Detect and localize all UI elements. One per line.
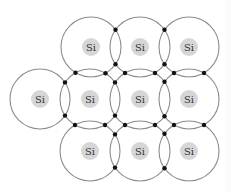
atom-label: Si bbox=[86, 42, 96, 53]
atom-label: Si bbox=[184, 94, 194, 105]
atom-label: Si bbox=[135, 42, 145, 53]
silicon-lattice-diagram: SiSiSiSiSiSiSiSiSiSi bbox=[0, 0, 231, 192]
bonding-electron bbox=[202, 71, 206, 75]
atom-label: Si bbox=[184, 42, 194, 53]
atom-label: Si bbox=[35, 94, 45, 105]
bonding-electron bbox=[113, 62, 117, 66]
bonding-electron bbox=[153, 71, 157, 75]
atom-label: Si bbox=[85, 146, 95, 157]
bonding-electron bbox=[123, 71, 127, 75]
silicon-atom: Si bbox=[180, 38, 198, 56]
silicon-atom: Si bbox=[82, 38, 100, 56]
bonding-electron bbox=[162, 166, 166, 170]
bonding-electron bbox=[73, 71, 77, 75]
atom-label: Si bbox=[135, 146, 145, 157]
atom-label: Si bbox=[135, 94, 145, 105]
bonding-electron bbox=[162, 132, 166, 136]
bonding-electron bbox=[162, 62, 166, 66]
bonding-electron bbox=[103, 123, 107, 127]
bonding-electron bbox=[113, 113, 117, 117]
bonding-electron bbox=[162, 114, 166, 118]
bonding-electron bbox=[113, 28, 117, 32]
bonding-electron bbox=[172, 123, 176, 127]
atom-label: Si bbox=[85, 94, 95, 105]
silicon-atom: Si bbox=[81, 142, 99, 160]
bonding-electron bbox=[162, 28, 166, 32]
bonding-electron bbox=[172, 71, 176, 75]
silicon-atom: Si bbox=[31, 90, 49, 108]
silicon-atom: Si bbox=[131, 142, 149, 160]
atom-cores: SiSiSiSiSiSiSiSiSiSi bbox=[31, 38, 198, 160]
bonding-electron bbox=[113, 80, 117, 84]
bonding-electron bbox=[113, 165, 117, 169]
bonding-electron bbox=[202, 123, 206, 127]
bonding-electron bbox=[123, 123, 127, 127]
bonding-electron bbox=[63, 80, 67, 84]
bonding-electron bbox=[103, 71, 107, 75]
bonding-electron bbox=[153, 123, 157, 127]
bonding-electron bbox=[113, 132, 117, 136]
silicon-atom: Si bbox=[131, 90, 149, 108]
bonding-electron bbox=[162, 80, 166, 84]
silicon-atom: Si bbox=[131, 38, 149, 56]
edge-strip bbox=[226, 0, 231, 192]
silicon-atom: Si bbox=[180, 142, 198, 160]
silicon-atom: Si bbox=[81, 90, 99, 108]
silicon-atom: Si bbox=[180, 90, 198, 108]
bonding-electron bbox=[63, 113, 67, 117]
bonding-electron bbox=[73, 123, 77, 127]
atom-label: Si bbox=[184, 146, 194, 157]
